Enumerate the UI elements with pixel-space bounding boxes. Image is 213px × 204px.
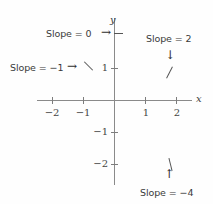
- y-tick-label-neg2: −2: [88, 159, 108, 169]
- x-tick-mark-1: [145, 97, 146, 104]
- slope-mark-zero: [114, 33, 123, 34]
- x-axis-label: x: [196, 93, 202, 104]
- y-tick-mark-1: [111, 68, 118, 69]
- slope-mark-two: [166, 66, 173, 78]
- y-tick-label-1: 1: [92, 63, 108, 73]
- callout-label-slope-two: Slope = 2: [146, 33, 192, 44]
- x-tick-mark-neg1: [83, 97, 84, 104]
- y-axis-line: [114, 18, 115, 185]
- callout-arrow-slope-zero: →: [101, 27, 111, 38]
- callout-label-slope-negative-one: Slope = −1: [10, 62, 63, 73]
- y-axis-label: y: [110, 14, 116, 25]
- x-tick-label-neg1: −1: [76, 108, 91, 118]
- x-tick-label-2: 2: [174, 108, 180, 118]
- callout-label-slope-zero: Slope = 0: [46, 28, 92, 39]
- callout-arrow-slope-negative-four: ↑: [164, 169, 174, 180]
- y-tick-mark-neg1: [111, 132, 118, 133]
- y-tick-mark-neg2: [111, 164, 118, 165]
- slope-diagram-figure: x y −2 −1 1 2 1 −1 −2 Slope = 0 → Slope …: [0, 0, 213, 204]
- callout-arrow-slope-negative-one: →: [67, 61, 77, 72]
- x-tick-label-neg2: −2: [45, 108, 60, 118]
- x-tick-mark-neg2: [52, 97, 53, 104]
- x-tick-label-1: 1: [143, 108, 149, 118]
- x-tick-mark-2: [176, 97, 177, 104]
- callout-label-slope-negative-four: Slope = −4: [140, 187, 193, 198]
- y-tick-label-neg1: −1: [88, 127, 108, 137]
- callout-arrow-slope-two: ↓: [165, 50, 175, 61]
